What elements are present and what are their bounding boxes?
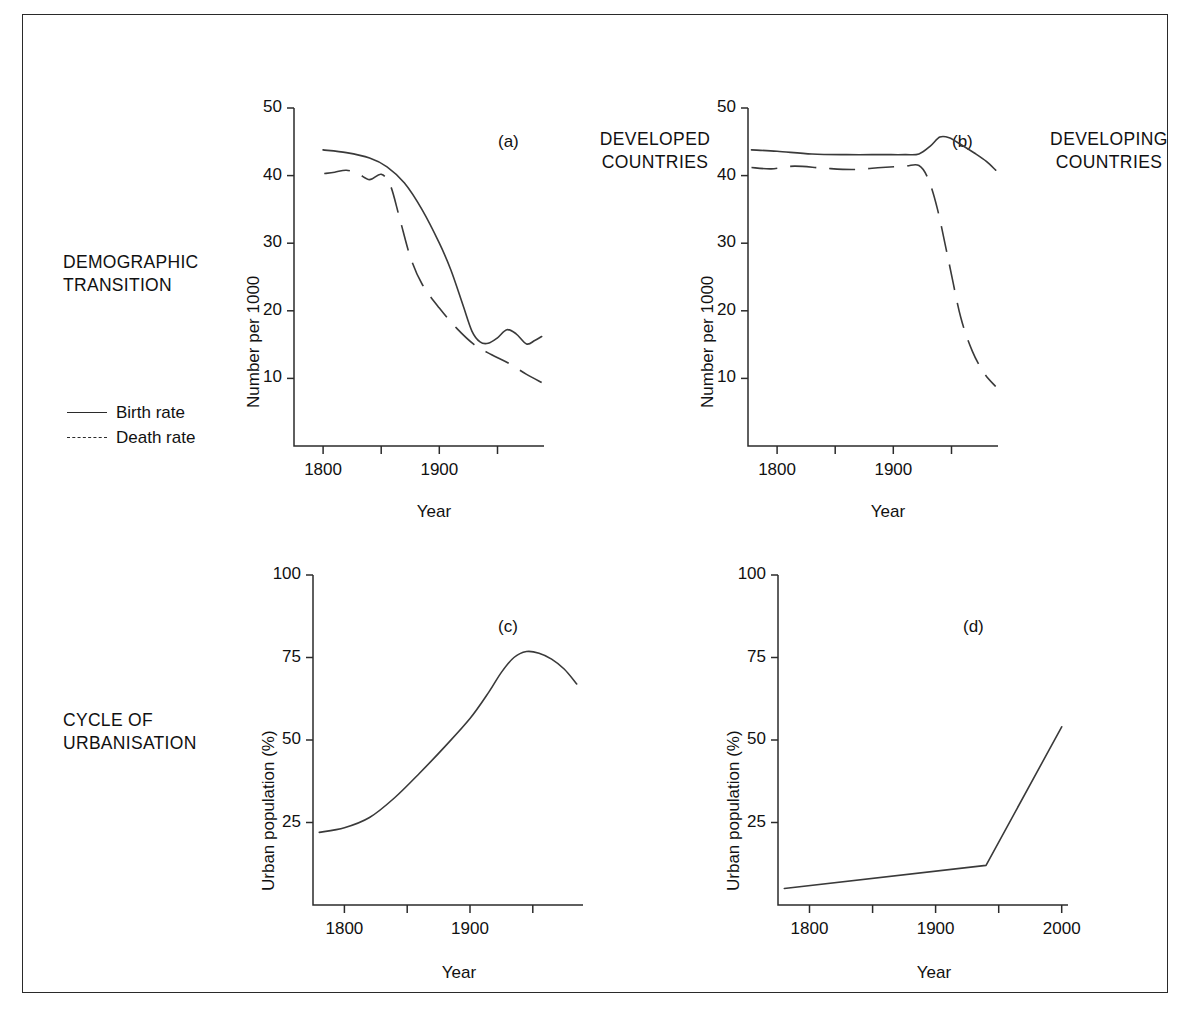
panel-a-y-axis-label: Number per 1000: [244, 276, 264, 408]
panel-b-axis-lines: [748, 108, 998, 446]
panel-d-developing-urbanisation: (d)Urban population (%)Year2550751001800…: [778, 575, 1068, 905]
panel-c-y-tick-label: 75: [251, 647, 301, 667]
panel-d-plot: [778, 575, 1108, 935]
legend-swatch-solid-line-icon: [67, 407, 107, 419]
panel-b-plot: [748, 108, 1038, 476]
panel-b-series-death-rate: [751, 165, 995, 387]
panel-a-developed-demographic: (a)DEVELOPED COUNTRIESNumber per 1000Yea…: [294, 108, 544, 446]
panel-a-y-tick-label: 20: [232, 300, 282, 320]
panel-b-y-tick-label: 10: [686, 367, 736, 387]
legend-item-birth-rate: Birth rate: [67, 400, 195, 425]
panel-d-y-tick-label: 25: [716, 812, 766, 832]
panel-d-y-tick-label: 100: [716, 564, 766, 584]
row-label-cycle-of-urbanisation: CYCLE OF URBANISATION: [63, 709, 197, 755]
panel-d-y-tick-label: 50: [716, 729, 766, 749]
row-label-demographic-transition: DEMOGRAPHIC TRANSITION: [63, 251, 199, 297]
panel-a-y-tick-label: 30: [232, 232, 282, 252]
panel-d-y-tick-label: 75: [716, 647, 766, 667]
panel-b-y-tick-label: 50: [686, 97, 736, 117]
panel-c-developed-urbanisation: (c)Urban population (%)Year2550751001800…: [313, 575, 583, 905]
panel-a-y-tick-label: 40: [232, 165, 282, 185]
panel-a-x-axis-label: Year: [394, 502, 474, 522]
panel-b-y-tick-label: 30: [686, 232, 736, 252]
legend-label-death-rate: Death rate: [116, 428, 195, 448]
panel-c-x-axis-label: Year: [419, 963, 499, 983]
panel-a-series-death-rate: [324, 170, 541, 382]
panel-c-series-urban-population: [319, 651, 576, 832]
panel-d-axis-lines: [778, 575, 1068, 905]
panel-b-y-tick-label: 20: [686, 300, 736, 320]
legend-swatch-dashed-line-icon: [67, 432, 107, 444]
panel-c-axis-lines: [313, 575, 583, 905]
panel-c-y-tick-label: 25: [251, 812, 301, 832]
legend-item-death-rate: Death rate: [67, 425, 195, 450]
panel-b-y-tick-label: 40: [686, 165, 736, 185]
panel-c-y-tick-label: 100: [251, 564, 301, 584]
figure-frame: DEMOGRAPHIC TRANSITION CYCLE OF URBANISA…: [22, 14, 1168, 993]
panel-b-series-birth-rate: [751, 136, 995, 170]
panel-a-y-tick-label: 10: [232, 367, 282, 387]
legend-label-birth-rate: Birth rate: [116, 403, 185, 423]
legend: Birth rate Death rate: [67, 400, 195, 450]
panel-a-y-tick-label: 50: [232, 97, 282, 117]
panel-a-plot: [294, 108, 584, 476]
panel-b-developing-demographic: (b)DEVELOPING COUNTRIESNumber per 1000Ye…: [748, 108, 998, 446]
panel-d-series-urban-population: [784, 727, 1061, 889]
panel-d-x-axis-label: Year: [894, 963, 974, 983]
panel-b-x-axis-label: Year: [848, 502, 928, 522]
panel-c-plot: [313, 575, 623, 935]
panel-a-series-birth-rate: [323, 150, 542, 344]
panel-c-y-tick-label: 50: [251, 729, 301, 749]
panel-b-y-axis-label: Number per 1000: [698, 276, 718, 408]
